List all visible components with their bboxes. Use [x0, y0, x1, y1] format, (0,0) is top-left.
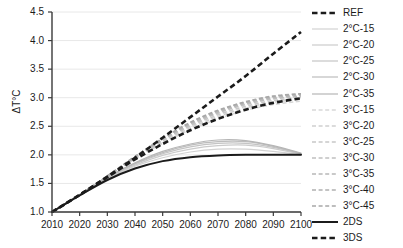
- legend-line-swatch: [312, 233, 338, 243]
- legend-item-label: 3°C-30: [343, 153, 374, 163]
- y-tick-label: 4.0: [18, 35, 44, 46]
- y-tick-label: 4.5: [18, 6, 44, 17]
- x-tick-label: 2100: [284, 219, 318, 230]
- series-line: [52, 32, 301, 212]
- legend-line-swatch: [312, 137, 338, 147]
- legend-item-label: 2DS: [343, 217, 362, 227]
- legend-item[interactable]: 2°C-25: [312, 53, 403, 69]
- legend-item[interactable]: 3°C-40: [312, 182, 403, 198]
- legend-item-label: 3°C-20: [343, 121, 374, 131]
- legend-item[interactable]: 2°C-35: [312, 85, 403, 101]
- legend-item[interactable]: 3°C-35: [312, 166, 403, 182]
- legend-line-swatch: [312, 40, 338, 50]
- y-tick-label: 2.5: [18, 120, 44, 131]
- legend-item[interactable]: 2°C-30: [312, 69, 403, 85]
- legend-item[interactable]: 3°C-25: [312, 134, 403, 150]
- chart-legend: REF2°C-152°C-202°C-252°C-302°C-353°C-153…: [312, 5, 403, 246]
- legend-item[interactable]: REF: [312, 5, 403, 21]
- legend-line-swatch: [312, 169, 338, 179]
- legend-item-label: 3°C-15: [343, 105, 374, 115]
- legend-item[interactable]: 3°C-15: [312, 102, 403, 118]
- legend-item-label: 2°C-15: [343, 24, 374, 34]
- legend-item[interactable]: 2DS: [312, 214, 403, 230]
- legend-line-swatch: [312, 89, 338, 99]
- legend-item[interactable]: 3°C-20: [312, 118, 403, 134]
- legend-item-label: 2°C-25: [343, 56, 374, 66]
- legend-item-label: 3°C-25: [343, 137, 374, 147]
- legend-line-swatch: [312, 72, 338, 82]
- legend-line-swatch: [312, 8, 338, 18]
- y-tick-label: 1.5: [18, 177, 44, 188]
- series-line: [52, 94, 301, 212]
- legend-line-swatch: [312, 121, 338, 131]
- temperature-projection-chart: ΔT°C REF2°C-152°C-202°C-252°C-302°C-353°…: [0, 0, 403, 248]
- y-tick-label: 3.5: [18, 63, 44, 74]
- legend-line-swatch: [312, 201, 338, 211]
- y-tick-label: 3.0: [18, 92, 44, 103]
- legend-item-label: 2°C-30: [343, 72, 374, 82]
- legend-item-label: 3°C-35: [343, 169, 374, 179]
- legend-line-swatch: [312, 24, 338, 34]
- y-tick-label: 1.0: [18, 206, 44, 217]
- legend-item[interactable]: 3°C-30: [312, 150, 403, 166]
- legend-item-label: 3°C-40: [343, 185, 374, 195]
- legend-line-swatch: [312, 185, 338, 195]
- y-tick-label: 2.0: [18, 149, 44, 160]
- legend-item-label: 2°C-20: [343, 40, 374, 50]
- series-line: [52, 94, 301, 212]
- legend-item-label: 3DS: [343, 233, 362, 243]
- legend-line-swatch: [312, 56, 338, 66]
- legend-line-swatch: [312, 153, 338, 163]
- legend-item[interactable]: 2°C-20: [312, 37, 403, 53]
- series-line: [52, 101, 301, 212]
- legend-line-swatch: [312, 105, 338, 115]
- legend-item-label: 3°C-45: [343, 201, 374, 211]
- legend-item[interactable]: 2°C-15: [312, 21, 403, 37]
- legend-item-label: 2°C-35: [343, 89, 374, 99]
- legend-item[interactable]: 3DS: [312, 230, 403, 246]
- series-line: [52, 95, 301, 212]
- series-line: [52, 143, 301, 212]
- legend-item-label: REF: [343, 8, 363, 18]
- legend-item[interactable]: 3°C-45: [312, 198, 403, 214]
